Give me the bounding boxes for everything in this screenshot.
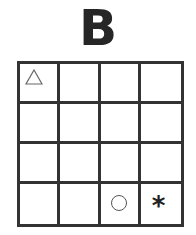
grid-cell-r1-c3 — [141, 104, 181, 144]
grid-cell-r0-c1 — [60, 64, 100, 104]
grid-cell-r2-c2 — [101, 144, 141, 184]
grid-cell-r2-c3 — [141, 144, 181, 184]
grid-cell-r1-c0 — [20, 104, 60, 144]
grid-cell-r1-c2 — [101, 104, 141, 144]
grid-cell-r3-c1 — [60, 184, 100, 224]
symbol-grid: * — [17, 61, 184, 227]
grid-cell-r0-c0 — [20, 64, 60, 104]
grid-cell-r0-c3 — [141, 64, 181, 104]
grid-cell-r2-c0 — [20, 144, 60, 184]
grid-cell-r0-c2 — [101, 64, 141, 104]
grid-cell-r3-c0 — [20, 184, 60, 224]
triangle-icon — [25, 69, 43, 85]
asterisk-icon: * — [152, 193, 166, 219]
grid-cell-r1-c1 — [60, 104, 100, 144]
grid-cell-r3-c2 — [101, 184, 141, 224]
grid-title: B — [0, 2, 196, 54]
circle-icon — [111, 195, 127, 211]
grid-cell-r2-c1 — [60, 144, 100, 184]
grid-cell-r3-c3: * — [141, 184, 181, 224]
